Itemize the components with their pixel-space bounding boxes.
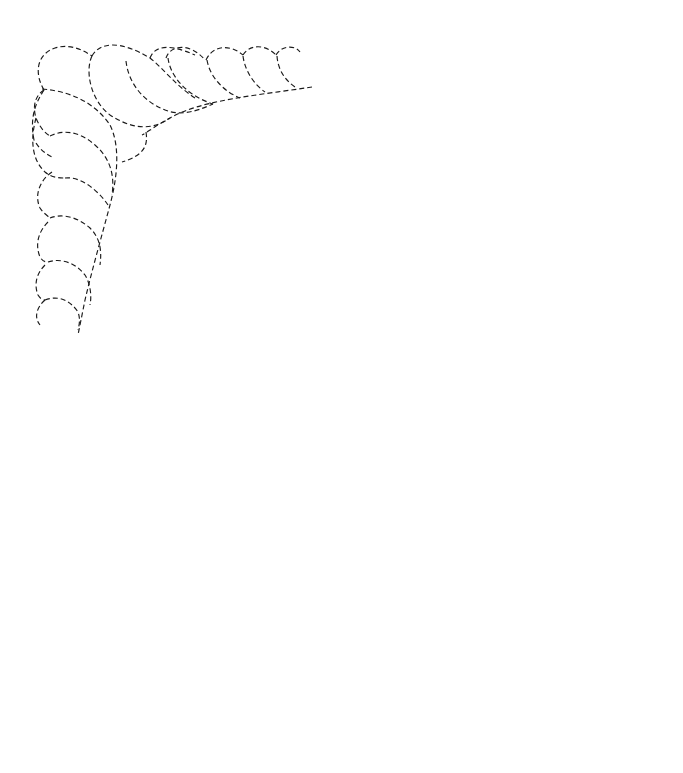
quilting-patterns-canvas: [0, 0, 683, 773]
feathered-corner-pattern: [32, 45, 312, 335]
